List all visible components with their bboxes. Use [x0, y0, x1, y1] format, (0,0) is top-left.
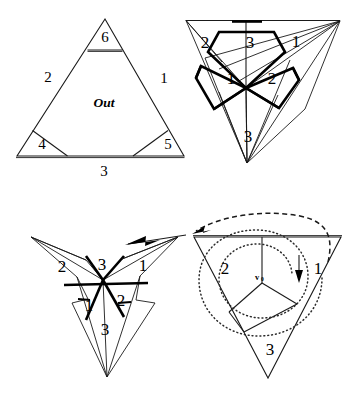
figure-root: 6 2 1 Out 4 5 3 [0, 0, 353, 393]
crease-flap-5 [133, 131, 168, 157]
vertex-label-base: v [255, 272, 260, 282]
figure-canvas: 6 2 1 Out 4 5 3 [0, 0, 353, 393]
spiral-outer [199, 230, 322, 336]
label-star-3-lower: 3 [101, 320, 110, 339]
tick-left [196, 66, 201, 78]
vertex-label-v0: v 0 [255, 272, 264, 282]
label-tri-3: 3 [266, 340, 275, 359]
label-sector-1-lower: 1 [227, 69, 236, 88]
ray-tr-a [205, 21, 340, 58]
label-tri-2: 2 [221, 259, 230, 278]
label-edge-4: 4 [38, 136, 46, 152]
ray-b-e [247, 109, 305, 163]
label-edge-6: 6 [101, 29, 109, 45]
dashed-transfer-arc [196, 213, 330, 262]
label-edge-3: 3 [100, 163, 108, 179]
label-sector-2-outer: 2 [201, 33, 210, 52]
sector-line-lower-left [229, 283, 262, 312]
label-sector-3-upper: 3 [246, 33, 255, 52]
label-star-3-upper: 3 [98, 255, 107, 274]
vertex-label-subscript: 0 [261, 276, 264, 282]
sector-base-left [229, 312, 244, 332]
panel-top-left: 6 2 1 Out 4 5 3 [16, 19, 185, 179]
sector-line-lower-right [262, 283, 297, 304]
fold-arrow-head [125, 236, 160, 246]
ray-tr-b [219, 21, 340, 69]
label-sector-2-lower: 2 [268, 69, 277, 88]
label-out-region: Out [93, 95, 115, 110]
label-tri-1: 1 [314, 259, 323, 278]
label-edge-2: 2 [44, 69, 52, 85]
label-edge-5: 5 [164, 136, 172, 152]
label-edge-1: 1 [160, 70, 168, 86]
panel-top-right: 2 3 1 1 2 3 [186, 21, 340, 164]
label-star-2-lower: 2 [117, 291, 126, 310]
label-star-1-lower: 1 [85, 296, 94, 315]
label-star-1-upper: 1 [139, 256, 148, 275]
panel-bottom-right: v 0 2 1 3 [192, 213, 342, 378]
cone-spine-lower [246, 88, 247, 163]
star-guide-left [31, 237, 103, 280]
flap-1-edge [214, 88, 246, 109]
panel-bottom-left: 2 3 1 1 2 3 [31, 235, 186, 377]
cone-outline-left [186, 21, 247, 164]
label-star-2-upper: 2 [58, 257, 67, 276]
label-sector-3-bottom: 3 [244, 127, 253, 146]
label-sector-1-outer: 1 [292, 32, 301, 51]
ray-tr-e [305, 21, 340, 109]
tick-right [293, 68, 299, 80]
rotation-arrow-head [295, 270, 303, 283]
